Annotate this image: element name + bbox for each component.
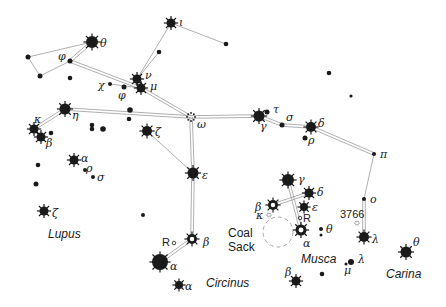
theta-car-label: θ	[413, 236, 420, 249]
kappa-cen-label: κ	[33, 113, 42, 126]
zeta-lup-label: ζ	[52, 207, 59, 220]
alpha-cir-label: α	[185, 280, 193, 293]
omega-cen-label: ω	[197, 118, 206, 131]
beta-cru-star-icon	[265, 197, 280, 212]
delta-cen-star-icon	[303, 119, 318, 134]
pi-cen-label: π	[379, 148, 388, 161]
line-omega-cen-epsilon-cen	[190, 117, 192, 173]
chi-cen-star-icon	[108, 82, 112, 86]
phi-cen-star-icon	[68, 59, 73, 64]
field-star-icon	[36, 163, 41, 168]
alpha-cru-star-icon	[293, 222, 309, 238]
line-delta-cen-pi-cen	[310, 128, 373, 155]
line-omega-cen-gamma-cen	[191, 115, 259, 116]
outline-segment	[28, 57, 40, 76]
region-coal-sack-1: Coal	[228, 226, 253, 240]
line-epsilon-cen-beta-cen	[193, 173, 194, 239]
gamma-cru-label: γ	[298, 173, 305, 186]
star-labels: θιφνμχφηκβζωγτσδρπoλεβαααρσζγδεβκαθβλμθ3…	[33, 16, 420, 293]
sigma-lup-label: σ	[97, 171, 105, 184]
field-star-icon	[320, 272, 325, 277]
mu-mus-label: μ	[344, 264, 351, 277]
o-cen-star-icon	[362, 197, 366, 201]
beta-mus-label: β	[284, 266, 291, 279]
theta-cen-label: θ	[100, 37, 107, 50]
zeta-lup-star-icon	[37, 204, 51, 218]
sigma-lup-star-icon	[91, 175, 95, 179]
iota-cen-label: ι	[179, 16, 183, 29]
epsilon-cru-label: ε	[312, 201, 318, 214]
field-star-icon	[26, 55, 31, 60]
r-centauri-label: R	[162, 236, 170, 248]
sigma-cen-star-icon	[280, 123, 285, 128]
mu-cen-label: μ	[150, 80, 157, 93]
kappa-cru-star-icon	[267, 213, 272, 217]
field-star-icon	[349, 94, 352, 97]
field-star-icon	[68, 76, 73, 81]
region-lupus: Lupus	[48, 227, 81, 241]
delta-cru-label: δ	[317, 186, 324, 199]
region-carina: Carina	[386, 267, 422, 281]
lambda-cen-label: λ	[371, 233, 379, 246]
alpha-lup-star-icon	[67, 153, 81, 167]
alpha-cen-star-icon	[149, 251, 170, 272]
line-gamma-cru-alpha-cru	[289, 180, 302, 230]
outline-segment	[40, 61, 70, 76]
region-coal-sack-2: Sack	[228, 240, 256, 254]
ngc-3766-star-icon	[355, 221, 360, 225]
zeta-cen-label: ζ	[155, 126, 162, 139]
alpha-cen-label: α	[170, 260, 178, 273]
line-epsilon-cen-beta-cen	[191, 173, 192, 239]
tau-cen-label: τ	[273, 103, 280, 116]
zeta-cen-star-icon	[139, 123, 154, 138]
sigma-cen-label: σ	[286, 111, 294, 124]
field-star-icon	[327, 71, 332, 76]
field-star-icon	[90, 127, 95, 132]
theta-cru-label: θ	[326, 223, 333, 236]
kappa-cru-label: κ	[255, 209, 264, 222]
gamma-cen-label: γ	[260, 120, 267, 133]
beta-cen-label: β	[202, 236, 209, 249]
line-omega-cen-epsilon-cen	[192, 117, 194, 173]
field-star-icon	[38, 74, 43, 79]
delta-cen-label: δ	[318, 117, 325, 130]
beta-cen-star-icon	[184, 231, 199, 246]
field-star-icon	[157, 50, 162, 55]
lambda-mus-label: λ	[357, 253, 365, 266]
line-gamma-cru-alpha-cru	[287, 180, 300, 230]
theta-car-star-icon	[398, 244, 414, 260]
field-star-icon	[127, 117, 132, 122]
field-star-icon	[141, 213, 145, 217]
ngc-3766-label: 3766	[340, 208, 364, 220]
star-chart: θιφνμχφηκβζωγτσδρπoλεβαααρσζγδεβκαθβλμθ3…	[0, 0, 446, 307]
theta-cru-star-icon	[319, 227, 323, 231]
omega-cen-star-icon	[186, 112, 196, 122]
field-star-icon	[49, 131, 54, 136]
coal-sack-outline	[263, 217, 293, 247]
epsilon-cen-star-icon	[185, 165, 201, 181]
line-phi-cen-mu-cen	[70, 62, 141, 89]
field-star-icon	[90, 123, 95, 128]
theta-cen-star-icon	[83, 33, 100, 50]
epsilon-cen-label: ε	[202, 169, 208, 182]
field-star-icon	[100, 126, 106, 132]
pi-cen-star-icon	[372, 152, 376, 156]
rho-lup-label: ρ	[85, 162, 93, 175]
eta-cen-star-icon	[57, 101, 73, 117]
line-nu-cen-iota-cen	[137, 23, 171, 79]
r-mus-mark-star-icon	[298, 216, 302, 220]
eta-cen-label: η	[72, 109, 79, 122]
line-zeta-cen-epsilon-cen	[147, 131, 193, 173]
phi-cen-label: φ	[58, 50, 66, 63]
r-cen-mark-star-icon	[172, 241, 176, 245]
rho-cen-star-icon	[303, 136, 308, 141]
field-star-icon	[224, 42, 229, 47]
region-musca: Musca	[301, 252, 337, 266]
tau-cen-star-icon	[265, 110, 270, 115]
o-cen-label: o	[370, 193, 377, 206]
lambda-cen-star-icon	[356, 229, 371, 244]
gamma-cru-star-icon	[279, 171, 296, 188]
mu-cen-star-icon	[134, 81, 148, 95]
r-muscae-label: R	[303, 212, 311, 224]
line-phi-cen-mu-cen	[70, 60, 141, 87]
